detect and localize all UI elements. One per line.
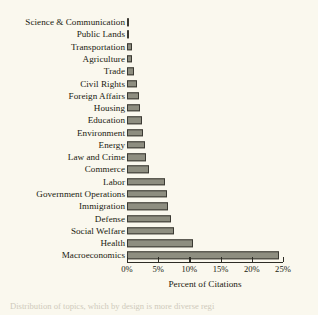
bar	[127, 215, 171, 222]
x-axis-tick	[252, 257, 253, 263]
page-caption-bleed: Distribution of topics, which by design …	[10, 301, 310, 312]
bar-category-label: Science & Communication	[25, 17, 125, 27]
bar-category-label: Commerce	[85, 164, 125, 174]
bar-row: Foreign Affairs	[0, 90, 318, 102]
x-axis-title: Percent of Citations	[127, 279, 283, 290]
bar	[127, 141, 145, 148]
bar-category-label: Defense	[95, 214, 125, 224]
bar	[127, 227, 174, 234]
x-axis-tick	[127, 257, 128, 263]
bar-category-label: Agriculture	[83, 54, 125, 64]
bar-category-label: Environment	[77, 128, 125, 138]
bar	[127, 43, 132, 50]
bar	[127, 129, 143, 136]
x-axis-tick-label: 25%	[275, 264, 291, 274]
bar	[127, 203, 168, 210]
bar	[127, 154, 146, 161]
bar	[127, 55, 132, 62]
bar-category-label: Foreign Affairs	[69, 91, 125, 101]
bar	[127, 104, 140, 111]
x-axis-tick-label: 15%	[213, 264, 229, 274]
bar	[127, 68, 134, 75]
bar-row: Energy	[0, 139, 318, 151]
bar-category-label: Macroeconomics	[62, 250, 125, 260]
x-axis-tick-label: 10%	[182, 264, 198, 274]
bar-category-label: Education	[88, 115, 125, 125]
bar-row: Government Operations	[0, 188, 318, 200]
bar-row: Labor	[0, 176, 318, 188]
bar-row: Science & Communication	[0, 16, 318, 28]
bar-category-label: Energy	[99, 140, 125, 150]
x-axis-tick	[189, 257, 190, 263]
bar-row: Public Lands	[0, 28, 318, 40]
plot-area: Science & CommunicationPublic LandsTrans…	[0, 0, 318, 262]
bar	[127, 117, 142, 124]
bar-category-label: Immigration	[79, 201, 125, 211]
bar-row: Commerce	[0, 163, 318, 175]
x-axis-tick	[221, 257, 222, 263]
bar	[127, 31, 129, 38]
bar-row: Health	[0, 237, 318, 249]
x-axis-tick-label: 20%	[244, 264, 260, 274]
bar-category-label: Public Lands	[77, 29, 125, 39]
x-axis-tick-label: 5%	[152, 264, 163, 274]
bar-chart-figure: Science & CommunicationPublic LandsTrans…	[0, 0, 318, 315]
bar	[127, 190, 167, 197]
bar-row: Education	[0, 114, 318, 126]
bar-row: Agriculture	[0, 53, 318, 65]
bar	[127, 178, 165, 185]
bar-row: Transportation	[0, 41, 318, 53]
bar-category-label: Social Welfare	[71, 226, 125, 236]
bar-row: Trade	[0, 65, 318, 77]
bar-row: Housing	[0, 102, 318, 114]
bar	[127, 166, 149, 173]
x-axis-line	[127, 262, 283, 263]
bar-category-label: Law and Crime	[68, 152, 125, 162]
bar-row: Defense	[0, 212, 318, 224]
bar	[127, 80, 137, 87]
bar-category-label: Government Operations	[36, 189, 125, 199]
bar-category-label: Civil Rights	[80, 79, 125, 89]
bar-category-label: Trade	[104, 66, 125, 76]
bar	[127, 239, 193, 246]
bar	[127, 252, 279, 259]
x-axis-tick-label: 0%	[121, 264, 132, 274]
bar-category-label: Transportation	[71, 42, 125, 52]
x-axis-tick	[158, 257, 159, 263]
bar-row: Immigration	[0, 200, 318, 212]
x-axis-tick	[283, 257, 284, 263]
bar-row: Law and Crime	[0, 151, 318, 163]
bar-row: Social Welfare	[0, 225, 318, 237]
bar-row: Environment	[0, 127, 318, 139]
bar-category-label: Labor	[103, 177, 125, 187]
bar	[127, 92, 139, 99]
bar-row: Civil Rights	[0, 77, 318, 89]
bar-category-label: Housing	[94, 103, 125, 113]
bar	[127, 18, 129, 25]
bar-category-label: Health	[100, 238, 125, 248]
